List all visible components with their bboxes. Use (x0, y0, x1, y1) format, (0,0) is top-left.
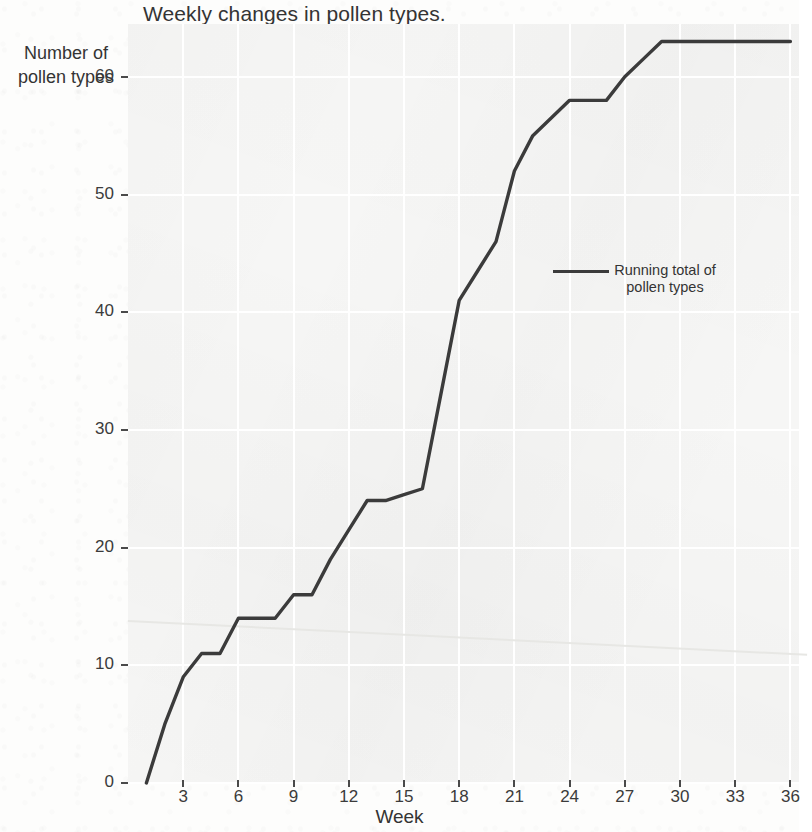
y-tick-label-10: 10 (64, 654, 114, 674)
y-tick-label-50: 50 (64, 184, 114, 204)
x-axis-label: Week (0, 806, 799, 828)
x-tick-label-15: 15 (379, 787, 429, 807)
legend-entry-label-line-1: Running total of (610, 262, 720, 279)
y-tick-mark-50 (121, 194, 128, 196)
data-line-layer (128, 24, 799, 783)
plot-area (128, 24, 799, 783)
x-tick-label-18: 18 (434, 787, 484, 807)
x-tick-label-24: 24 (545, 787, 595, 807)
x-tick-label-33: 33 (710, 787, 760, 807)
series-line-running-total (146, 41, 790, 783)
x-tick-mark-27 (624, 780, 626, 787)
x-tick-mark-33 (734, 780, 736, 787)
y-tick-label-30: 30 (64, 419, 114, 439)
x-tick-mark-30 (679, 780, 681, 787)
legend-entry-label-line-2: pollen types (610, 279, 720, 296)
x-tick-label-9: 9 (269, 787, 319, 807)
x-tick-mark-21 (513, 780, 515, 787)
legend-entry-label: Running total of pollen types (610, 262, 720, 296)
y-tick-label-60: 60 (64, 66, 114, 86)
y-tick-mark-40 (121, 311, 128, 313)
y-tick-mark-10 (121, 664, 128, 666)
x-tick-label-12: 12 (324, 787, 374, 807)
y-tick-mark-60 (121, 76, 128, 78)
x-tick-mark-3 (182, 780, 184, 787)
y-axis-label-line-1: Number of (6, 41, 126, 65)
legend-line-swatch (553, 270, 609, 273)
x-tick-mark-6 (237, 780, 239, 787)
x-tick-label-30: 30 (655, 787, 705, 807)
x-tick-label-21: 21 (489, 787, 539, 807)
x-tick-label-36: 36 (765, 787, 812, 807)
y-tick-label-40: 40 (64, 301, 114, 321)
x-tick-mark-36 (789, 780, 791, 787)
x-tick-label-27: 27 (600, 787, 650, 807)
y-tick-label-0: 0 (64, 772, 114, 792)
x-tick-mark-9 (293, 780, 295, 787)
x-tick-mark-12 (348, 780, 350, 787)
y-tick-mark-20 (121, 547, 128, 549)
x-tick-mark-24 (569, 780, 571, 787)
x-tick-label-3: 3 (158, 787, 208, 807)
x-tick-mark-15 (403, 780, 405, 787)
x-tick-label-6: 6 (213, 787, 263, 807)
chart-legend: Running total of pollen types (553, 262, 720, 296)
chart-title: Weekly changes in pollen types. (143, 2, 446, 26)
y-tick-mark-0 (121, 782, 128, 784)
y-tick-label-20: 20 (64, 537, 114, 557)
x-tick-mark-18 (458, 780, 460, 787)
y-tick-mark-30 (121, 429, 128, 431)
